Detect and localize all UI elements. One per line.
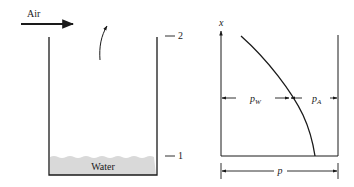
- pw-label: pW: [249, 93, 262, 106]
- water-label: Water: [91, 161, 115, 172]
- vapor-rise-arrow-icon: [100, 26, 107, 60]
- pressure-profile-diagram: x pW pA p: [218, 17, 338, 179]
- tank-walls: [49, 37, 157, 175]
- x-axis-label: x: [218, 17, 224, 28]
- level-1-label: 1: [178, 150, 183, 161]
- air-label: Air: [27, 8, 41, 19]
- profile-frame: [221, 35, 338, 156]
- p-total-label: p: [277, 165, 283, 176]
- level-2-label: 2: [178, 30, 183, 41]
- evaporation-diagram: Air Water 2 1 x pW pA: [0, 0, 354, 187]
- tank-diagram: Air Water 2 1: [21, 8, 183, 175]
- pa-label: pA: [311, 93, 322, 106]
